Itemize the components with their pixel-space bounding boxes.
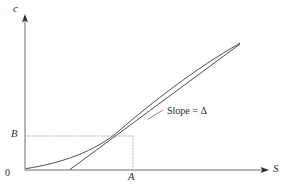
y-axis-tick-label-b: B	[11, 129, 17, 140]
x-axis-tick-label-a: A	[128, 172, 134, 183]
slope-leader-line	[148, 110, 164, 120]
tangent-line	[70, 44, 240, 170]
slope-annotation-label: Slope = Δ	[167, 106, 207, 116]
tangent-slope-diagram: c S 0 B A Slope = Δ	[0, 0, 288, 192]
origin-label: 0	[5, 168, 10, 178]
y-axis	[22, 14, 28, 170]
convex-cost-curve	[26, 43, 240, 168]
x-axis-label: S	[273, 163, 279, 174]
y-axis-label: c	[13, 3, 18, 14]
x-axis	[25, 167, 269, 173]
plot-canvas	[0, 0, 288, 192]
